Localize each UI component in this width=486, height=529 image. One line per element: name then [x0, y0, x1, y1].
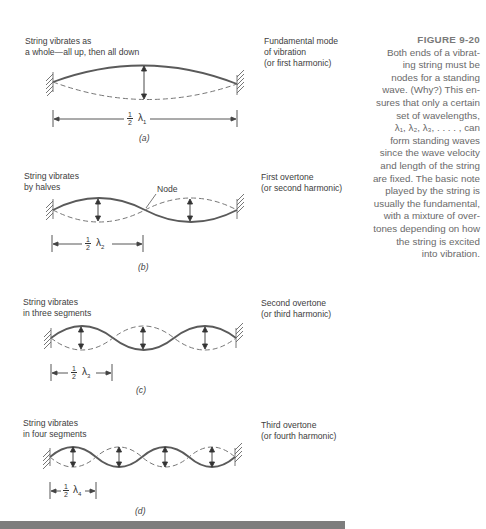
- amplitude-arrow-icon: [117, 447, 122, 467]
- right-wall-hatch-icon: [235, 443, 242, 466]
- figure-caption: FIGURE 9-20 Both ends of a vibrat- ing s…: [358, 34, 480, 261]
- amplitude-arrow-icon: [71, 447, 76, 467]
- lambda-d: λ4: [73, 484, 81, 497]
- page-bottom-bar: [0, 521, 345, 529]
- caption-line: played by the string is: [358, 185, 480, 198]
- amplitude-arrow-icon: [163, 447, 168, 467]
- caption-line: into vibration.: [358, 248, 480, 261]
- caption-line: nodes for a standing: [358, 72, 480, 85]
- caption-line: are fixed. The basic note: [358, 173, 480, 186]
- caption-line: with a mixture of over-: [358, 210, 480, 223]
- left-wall-hatch-icon: [43, 448, 50, 469]
- caption-line: ing string must be: [358, 59, 480, 72]
- caption-line: usually the fundamental,: [358, 198, 480, 211]
- panel-label-d: (d): [135, 506, 146, 516]
- fraction-denominator: 2: [63, 491, 69, 498]
- caption-line: and length of the string: [358, 160, 480, 173]
- caption-line: sures that only a certain: [358, 97, 480, 110]
- caption-line: Both ends of a vibrat-: [358, 47, 480, 60]
- caption-line: wave. (Why?) This en-: [358, 84, 480, 97]
- fraction-d: 1 2: [63, 483, 69, 498]
- lambda-subscript: 4: [78, 491, 81, 497]
- caption-line: set of wavelengths,: [358, 110, 480, 123]
- caption-line: tones depending on how: [358, 223, 480, 236]
- figure-title: FIGURE 9-20: [358, 34, 480, 47]
- caption-line: form standing waves: [358, 135, 480, 148]
- caption-line: λ₁, λ₂, λ₃, . . . . , can: [358, 122, 480, 135]
- caption-line: since the wave velocity: [358, 147, 480, 160]
- amplitude-arrow-icon: [210, 447, 215, 467]
- caption-line: the string is excited: [358, 236, 480, 249]
- fraction-numerator: 1: [63, 483, 69, 491]
